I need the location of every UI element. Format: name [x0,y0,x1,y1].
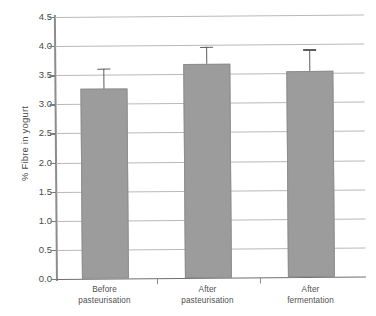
y-tick-mark [50,104,56,105]
error-bar-cap [303,49,316,50]
x-tick-mark [157,278,158,284]
x-category-label-line: After [263,285,359,296]
y-tick-mark [50,221,56,222]
error-bar-stem [206,47,208,64]
x-category-label: Afterpasteurisation [160,285,256,306]
x-tick-mark [260,277,261,283]
bar [183,63,232,278]
gridline [55,15,364,18]
x-axis-category-labels: BeforepasteurisationAfterpasteurisationA… [56,285,376,315]
x-category-label-line: After [160,285,256,296]
y-tick-mark [49,75,55,76]
x-category-label-line: Before [57,285,153,296]
y-tick-mark [49,46,55,47]
error-bar-cap [200,47,213,48]
y-axis-tick-marks [0,0,375,1]
bar [80,89,128,279]
error-bar-cap [97,68,110,69]
x-category-label-line: pasteurisation [160,296,256,307]
gridlines [55,15,364,17]
x-category-label: Afterfermentation [263,285,359,306]
y-tick-mark [50,163,56,164]
bar-chart: % Fibre in yogurt 0.00.51.01.52.02.53.03… [0,0,376,316]
x-category-label: Beforepasteurisation [57,285,153,306]
error-bar-stem [103,68,105,88]
y-tick-mark [50,133,56,134]
plot-area [55,15,366,279]
y-tick-mark [50,192,56,193]
y-tick-mark [51,250,57,251]
plot-skew-wrapper [0,0,376,316]
error-bar-stem [309,49,311,71]
bar [286,71,335,277]
y-tick-mark [49,17,55,18]
x-category-label-line: fermentation [263,296,359,307]
x-category-label-line: pasteurisation [57,296,153,307]
